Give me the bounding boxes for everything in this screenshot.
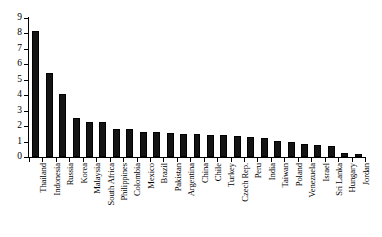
- bar: [274, 141, 281, 157]
- bar: [341, 153, 348, 157]
- x-tick-mark: [137, 158, 138, 162]
- y-tick-label: 9: [10, 13, 22, 23]
- x-tick-label: Argentina: [187, 163, 196, 196]
- bar: [113, 129, 120, 157]
- x-tick-mark: [325, 158, 326, 162]
- y-tick-label: 4: [10, 90, 22, 100]
- bar: [220, 135, 227, 157]
- y-tick-mark: [24, 95, 28, 96]
- x-tick-label: India: [268, 163, 277, 180]
- x-tick-label: Taiwan: [281, 163, 290, 188]
- x-tick-mark: [338, 158, 339, 162]
- x-tick-label: Poland: [295, 163, 304, 186]
- x-tick-mark: [29, 158, 30, 162]
- x-tick-label: South Africa: [107, 163, 116, 205]
- y-tick-mark: [24, 49, 28, 50]
- x-tick-label: Hungary: [348, 163, 357, 192]
- x-tick-label: China: [201, 163, 210, 183]
- x-tick-label: Philippines: [120, 163, 129, 201]
- y-tick-label: 6: [10, 59, 22, 69]
- x-tick-mark: [83, 158, 84, 162]
- y-tick-mark: [24, 64, 28, 65]
- bar: [355, 154, 362, 157]
- bar: [234, 136, 241, 157]
- x-axis-line: [28, 157, 366, 158]
- y-tick-mark: [24, 142, 28, 143]
- x-axis-labels: ThailandIndonesiaRussiaKoreaMalaysiaSout…: [29, 163, 365, 237]
- y-tick-mark: [24, 18, 28, 19]
- x-tick-mark: [177, 158, 178, 162]
- bar: [140, 132, 147, 157]
- x-tick-mark: [69, 158, 70, 162]
- bar: [180, 134, 187, 157]
- x-tick-label: Sri Lanka: [335, 163, 344, 196]
- x-tick-mark: [365, 158, 366, 162]
- bar: [126, 129, 133, 157]
- bars-container: [29, 18, 365, 157]
- bar: [167, 133, 174, 157]
- x-tick-mark: [190, 158, 191, 162]
- bar: [46, 73, 53, 157]
- x-tick-mark: [96, 158, 97, 162]
- bar: [261, 138, 268, 157]
- x-tick-label: Chile: [214, 163, 223, 181]
- x-tick-label: Korea: [80, 163, 89, 184]
- x-tick-mark: [150, 158, 151, 162]
- x-tick-mark: [42, 158, 43, 162]
- bar-chart: 0123456789 ThailandIndonesiaRussiaKoreaM…: [0, 0, 382, 237]
- x-tick-mark: [311, 158, 312, 162]
- x-tick-label: Indonesia: [53, 163, 62, 196]
- x-tick-mark: [110, 158, 111, 162]
- x-tick-label: Venezuela: [308, 163, 317, 197]
- x-tick-mark: [123, 158, 124, 162]
- x-tick-label: Czech Rep.: [241, 163, 250, 202]
- bar: [301, 144, 308, 157]
- x-tick-label: Peru: [254, 163, 263, 178]
- bar: [59, 94, 66, 157]
- bar: [194, 134, 201, 157]
- y-tick-label: 2: [10, 121, 22, 131]
- bar: [247, 137, 254, 157]
- bar: [207, 135, 214, 157]
- bar: [288, 142, 295, 157]
- x-tick-mark: [257, 158, 258, 162]
- x-tick-label: Pakistan: [174, 163, 183, 191]
- x-tick-mark: [298, 158, 299, 162]
- y-tick-mark: [24, 80, 28, 81]
- x-tick-mark: [204, 158, 205, 162]
- x-tick-mark: [217, 158, 218, 162]
- x-tick-label: Israel: [322, 163, 331, 181]
- bar: [32, 31, 39, 157]
- bar: [328, 146, 335, 157]
- x-tick-mark: [352, 158, 353, 162]
- y-tick-label: 7: [10, 44, 22, 54]
- y-tick-label: 0: [10, 152, 22, 162]
- y-tick-mark: [24, 111, 28, 112]
- x-tick-label: Malaysia: [93, 163, 102, 194]
- x-tick-mark: [56, 158, 57, 162]
- x-tick-label: Turkey: [227, 163, 236, 187]
- y-tick-label: 1: [10, 137, 22, 147]
- y-tick-mark: [24, 157, 28, 158]
- x-tick-label: Mexico: [147, 163, 156, 189]
- x-tick-mark: [271, 158, 272, 162]
- bar: [99, 122, 106, 157]
- y-tick-label: 8: [10, 28, 22, 38]
- bar: [73, 118, 80, 157]
- x-tick-mark: [231, 158, 232, 162]
- x-tick-label: Colombia: [133, 163, 142, 196]
- bar: [314, 145, 321, 157]
- x-tick-label: Brazil: [160, 163, 169, 183]
- x-tick-mark: [163, 158, 164, 162]
- y-tick-mark: [24, 33, 28, 34]
- x-tick-label: Russia: [66, 163, 75, 185]
- x-tick-mark: [284, 158, 285, 162]
- y-tick-label: 5: [10, 75, 22, 85]
- y-tick-mark: [24, 126, 28, 127]
- x-tick-label: Jordan: [362, 163, 371, 185]
- bar: [86, 122, 93, 157]
- x-tick-label: Thailand: [39, 163, 48, 193]
- y-tick-label: 3: [10, 106, 22, 116]
- x-tick-mark: [244, 158, 245, 162]
- bar: [153, 132, 160, 157]
